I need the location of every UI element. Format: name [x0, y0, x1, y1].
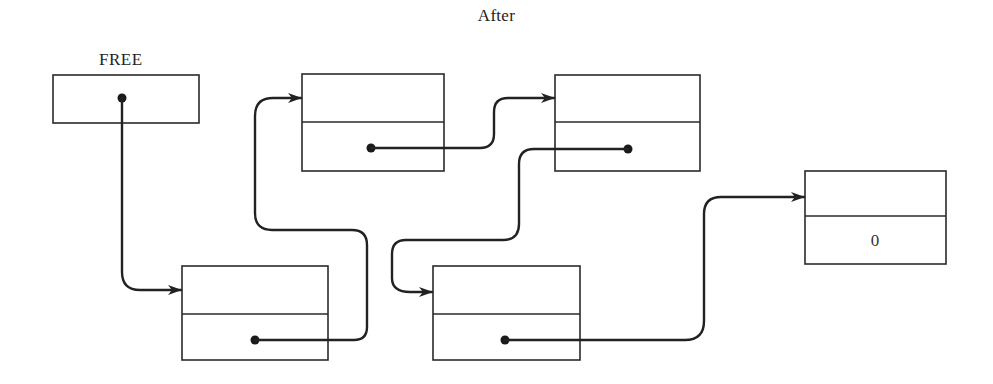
pointer-node2-to-node3 [371, 98, 554, 148]
pointer-node1-to-node2 [255, 98, 367, 340]
pointer-node4-to-node5 [505, 197, 804, 340]
node-box-bottom-middle [433, 266, 580, 360]
node-box-terminal: 0 [805, 171, 946, 264]
node-box-top-middle [302, 74, 444, 171]
pointer-free-to-node1 [122, 98, 181, 290]
null-value: 0 [871, 231, 880, 250]
node-box-bottom-left [182, 266, 328, 360]
free-head-box [53, 75, 199, 123]
linked-list-diagram: 0 [0, 0, 993, 384]
node-box-top-right [555, 75, 700, 171]
